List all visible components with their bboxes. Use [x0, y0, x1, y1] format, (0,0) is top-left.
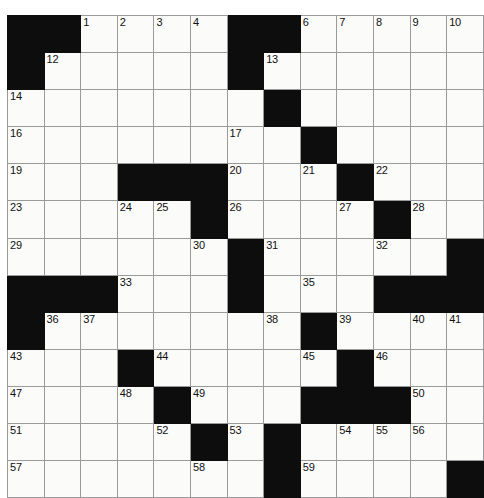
crossword-cell[interactable]	[227, 90, 264, 127]
crossword-cell[interactable]	[410, 461, 447, 498]
crossword-cell[interactable]	[264, 164, 301, 201]
crossword-cell[interactable]: 29	[8, 238, 45, 275]
crossword-cell[interactable]: 17	[227, 127, 264, 164]
crossword-cell[interactable]	[117, 312, 154, 349]
crossword-cell[interactable]: 30	[190, 238, 227, 275]
crossword-cell[interactable]	[190, 275, 227, 312]
crossword-cell[interactable]	[447, 424, 484, 461]
crossword-cell[interactable]	[154, 90, 191, 127]
crossword-cell[interactable]: 25	[154, 201, 191, 238]
crossword-cell[interactable]	[44, 349, 81, 386]
crossword-cell[interactable]: 57	[8, 461, 45, 498]
crossword-cell[interactable]: 21	[300, 164, 337, 201]
crossword-cell[interactable]	[373, 53, 410, 90]
crossword-cell[interactable]	[190, 53, 227, 90]
crossword-cell[interactable]	[117, 53, 154, 90]
crossword-cell[interactable]	[300, 53, 337, 90]
crossword-cell[interactable]	[154, 312, 191, 349]
crossword-cell[interactable]	[410, 238, 447, 275]
crossword-cell[interactable]	[190, 90, 227, 127]
crossword-cell[interactable]	[44, 461, 81, 498]
crossword-cell[interactable]	[117, 424, 154, 461]
crossword-cell[interactable]	[447, 127, 484, 164]
crossword-cell[interactable]	[337, 53, 374, 90]
crossword-cell[interactable]	[373, 312, 410, 349]
crossword-cell[interactable]: 55	[373, 424, 410, 461]
crossword-cell[interactable]	[373, 90, 410, 127]
crossword-cell[interactable]	[410, 53, 447, 90]
crossword-cell[interactable]	[227, 386, 264, 423]
crossword-cell[interactable]	[81, 461, 118, 498]
crossword-cell[interactable]: 26	[227, 201, 264, 238]
crossword-cell[interactable]	[447, 53, 484, 90]
crossword-cell[interactable]: 54	[337, 424, 374, 461]
crossword-cell[interactable]	[410, 127, 447, 164]
crossword-cell[interactable]	[81, 127, 118, 164]
crossword-cell[interactable]	[44, 201, 81, 238]
crossword-cell[interactable]: 31	[264, 238, 301, 275]
crossword-cell[interactable]	[264, 127, 301, 164]
crossword-cell[interactable]	[373, 461, 410, 498]
crossword-cell[interactable]: 49	[190, 386, 227, 423]
crossword-cell[interactable]	[81, 424, 118, 461]
crossword-cell[interactable]	[154, 238, 191, 275]
crossword-cell[interactable]: 10	[447, 16, 484, 53]
crossword-cell[interactable]: 3	[154, 16, 191, 53]
crossword-cell[interactable]: 24	[117, 201, 154, 238]
crossword-cell[interactable]: 48	[117, 386, 154, 423]
crossword-cell[interactable]	[410, 90, 447, 127]
crossword-cell[interactable]	[117, 90, 154, 127]
crossword-cell[interactable]: 41	[447, 312, 484, 349]
crossword-cell[interactable]	[227, 461, 264, 498]
crossword-cell[interactable]	[44, 424, 81, 461]
crossword-cell[interactable]	[81, 164, 118, 201]
crossword-cell[interactable]: 53	[227, 424, 264, 461]
crossword-cell[interactable]: 14	[8, 90, 45, 127]
crossword-cell[interactable]: 1	[81, 16, 118, 53]
crossword-cell[interactable]: 6	[300, 16, 337, 53]
crossword-cell[interactable]: 4	[190, 16, 227, 53]
crossword-cell[interactable]	[300, 90, 337, 127]
crossword-cell[interactable]: 38	[264, 312, 301, 349]
crossword-cell[interactable]	[337, 90, 374, 127]
crossword-cell[interactable]	[227, 349, 264, 386]
crossword-cell[interactable]: 20	[227, 164, 264, 201]
crossword-cell[interactable]	[154, 53, 191, 90]
crossword-cell[interactable]	[300, 238, 337, 275]
crossword-cell[interactable]: 9	[410, 16, 447, 53]
crossword-cell[interactable]	[117, 461, 154, 498]
crossword-cell[interactable]	[264, 386, 301, 423]
crossword-cell[interactable]: 39	[337, 312, 374, 349]
crossword-cell[interactable]	[300, 201, 337, 238]
crossword-cell[interactable]: 43	[8, 349, 45, 386]
crossword-cell[interactable]: 8	[373, 16, 410, 53]
crossword-cell[interactable]: 37	[81, 312, 118, 349]
crossword-cell[interactable]	[44, 238, 81, 275]
crossword-cell[interactable]	[190, 312, 227, 349]
crossword-cell[interactable]	[227, 312, 264, 349]
crossword-cell[interactable]: 23	[8, 201, 45, 238]
crossword-cell[interactable]: 36	[44, 312, 81, 349]
crossword-cell[interactable]: 35	[300, 275, 337, 312]
crossword-cell[interactable]	[264, 275, 301, 312]
crossword-cell[interactable]	[81, 201, 118, 238]
crossword-cell[interactable]	[44, 164, 81, 201]
crossword-cell[interactable]	[410, 164, 447, 201]
crossword-cell[interactable]	[410, 349, 447, 386]
crossword-cell[interactable]: 13	[264, 53, 301, 90]
crossword-cell[interactable]	[154, 461, 191, 498]
crossword-cell[interactable]	[81, 90, 118, 127]
crossword-cell[interactable]	[264, 201, 301, 238]
crossword-cell[interactable]: 46	[373, 349, 410, 386]
crossword-cell[interactable]: 33	[117, 275, 154, 312]
crossword-cell[interactable]	[44, 90, 81, 127]
crossword-cell[interactable]: 16	[8, 127, 45, 164]
crossword-cell[interactable]: 44	[154, 349, 191, 386]
crossword-cell[interactable]	[337, 461, 374, 498]
crossword-cell[interactable]	[154, 127, 191, 164]
crossword-cell[interactable]	[337, 238, 374, 275]
crossword-cell[interactable]	[337, 127, 374, 164]
crossword-cell[interactable]	[447, 164, 484, 201]
crossword-cell[interactable]	[337, 275, 374, 312]
crossword-cell[interactable]	[264, 349, 301, 386]
